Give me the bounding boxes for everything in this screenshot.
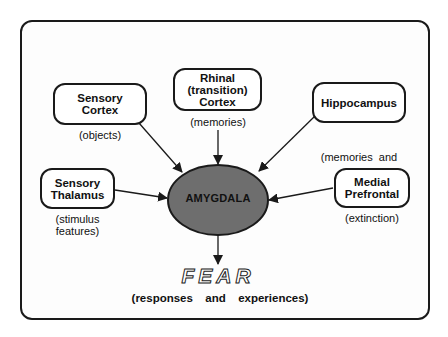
node-sensory-thalamus: Sensory Thalamus	[40, 168, 115, 209]
note-line: (stimulus	[40, 213, 115, 225]
node-label-line: Cortex	[77, 104, 122, 116]
node-label-line: (transition)	[187, 84, 247, 96]
note-medial-prefrontal: (extinction)	[330, 212, 414, 224]
amygdala-label: AMYGDALA	[168, 192, 268, 204]
note-line: features)	[40, 225, 115, 237]
note-line: (objects)	[53, 129, 147, 141]
arrow-sensory-thalamus	[115, 190, 167, 198]
note-rhinal-cortex: (memories)	[168, 116, 268, 128]
node-label-line: Medial	[345, 176, 399, 188]
fear-title: FEAR	[168, 264, 268, 288]
node-label-line: Thalamus	[51, 189, 105, 201]
note-line: (extinction)	[330, 212, 414, 224]
note-sensory-cortex: (objects)	[53, 129, 147, 141]
node-hippocampus: Hippocampus	[312, 82, 406, 123]
note-line: (memories and	[305, 151, 413, 163]
note-line: (memories)	[168, 116, 268, 128]
node-medial-prefrontal: Medial Prefrontal	[334, 168, 410, 208]
node-sensory-cortex: Sensory Cortex	[53, 83, 147, 125]
node-label-line: Hippocampus	[321, 97, 397, 109]
fear-subtitle: (responses and experiences)	[110, 292, 330, 304]
node-rhinal-cortex: Rhinal (transition) Cortex	[173, 68, 262, 111]
note-sensory-thalamus: (stimulus features)	[40, 213, 115, 237]
node-label-line: Sensory	[77, 92, 122, 104]
node-label-line: Sensory	[51, 177, 105, 189]
node-label-line: Rhinal	[187, 72, 247, 84]
node-label-line: Cortex	[187, 96, 247, 108]
node-label-line: Prefrontal	[345, 188, 399, 200]
